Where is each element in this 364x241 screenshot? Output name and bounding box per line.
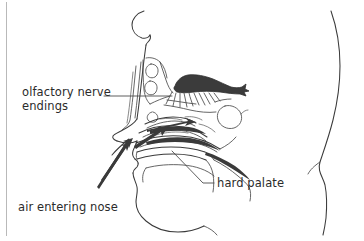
- olfactory-bulb: [174, 75, 249, 96]
- oral-cavity: [143, 165, 214, 182]
- back-of-head-outline: [308, 11, 340, 235]
- airflow-arrows: [134, 118, 196, 149]
- nasal-turbinates: [136, 112, 220, 152]
- olfactory-nerve-filaments: [164, 92, 220, 112]
- hard-palate: [136, 147, 214, 160]
- ethmoid-sinus-cavity: [145, 81, 157, 95]
- label-hard-palate: hard palate: [217, 177, 284, 191]
- air-entering-arrows: [97, 138, 133, 189]
- label-olfactory-line2: endings: [22, 99, 68, 113]
- cribriform-plate-structure: [143, 58, 173, 104]
- label-olfactory-line1: olfactory nerve: [22, 85, 111, 99]
- figure-canvas: olfactory nerve endings hard palate air …: [0, 0, 364, 241]
- label-air-entering-nose: air entering nose: [18, 201, 118, 215]
- label-olfactory-nerve-endings: olfactory nerve endings: [22, 86, 111, 113]
- sphenoid-sinus-cavity: [217, 105, 248, 128]
- frontal-sinus-cavity: [146, 64, 158, 78]
